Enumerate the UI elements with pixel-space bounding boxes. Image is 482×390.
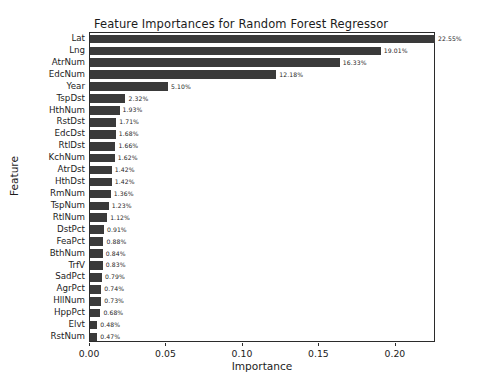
bar-row: 0.74% [90,283,124,295]
bar-value-label: 16.33% [343,60,367,66]
y-tick-label: Elvt [1,320,85,329]
bar-row: 2.32% [90,92,148,104]
bar-value-label: 19.01% [384,48,408,54]
chart-title: Feature Importances for Random Forest Re… [0,17,482,31]
bar [90,82,168,91]
bar-row: 22.55% [90,33,462,45]
bar [90,47,381,56]
y-tick-label: HthNum [1,105,85,114]
bar-row: 1.71% [90,116,139,128]
x-tick-mark [318,343,319,346]
bar [90,58,340,67]
x-tick-mark [242,343,243,346]
bar-row: 1.42% [90,164,135,176]
bar [90,309,100,318]
bar-row: 0.91% [90,224,127,236]
bar [90,35,435,44]
bar-value-label: 1.12% [110,215,130,221]
bar-row: 1.93% [90,104,142,116]
bar-value-label: 1.62% [118,155,138,161]
y-tick-label: RtlDst [1,141,85,150]
y-tick-label: HthDst [1,177,85,186]
bar-value-label: 1.42% [115,179,135,185]
y-axis-tick-labels: LatLngAtrNumEdcNumYearTspDstHthNumRstDst… [0,32,85,342]
bar-value-label: 0.83% [106,262,126,268]
bar-row: 1.12% [90,212,130,224]
bar-row: 16.33% [90,57,367,69]
y-tick-label: Year [1,81,85,90]
bar [90,213,107,222]
bar [90,154,115,163]
bar-value-label: 0.47% [100,334,120,340]
y-tick-label: FeaPct [1,236,85,245]
y-tick-label: TrfV [1,260,85,269]
bar [90,261,103,270]
bar-value-label: 0.79% [105,274,125,280]
bar-value-label: 5.10% [171,84,191,90]
y-tick-label: HppPct [1,308,85,317]
bar-row: 0.83% [90,259,126,271]
bar [90,190,111,199]
bar-row: 0.68% [90,307,123,319]
bar-value-label: 1.36% [114,191,134,197]
bar-value-label: 0.84% [106,251,126,257]
bar [90,333,97,342]
bar-row: 5.10% [90,80,191,92]
bar [90,130,116,139]
y-tick-label: SadPct [1,272,85,281]
bar-value-label: 0.73% [104,298,124,304]
bar [90,202,109,211]
bar [90,118,116,127]
y-tick-label: KchNum [1,153,85,162]
bar [90,225,104,234]
bar [90,70,276,79]
x-tick-label: 0.15 [308,348,329,359]
bar-row: 1.23% [90,200,132,212]
y-tick-label: Lat [1,34,85,43]
x-tick-label: 0.00 [79,348,100,359]
bar [90,273,102,282]
x-tick-label: 0.10 [232,348,253,359]
y-tick-label: HllNum [1,296,85,305]
y-tick-label: Lng [1,46,85,55]
bar [90,106,120,115]
y-tick-label: RstDst [1,117,85,126]
y-tick-label: RtlNum [1,212,85,221]
bar [90,142,115,151]
bar-row: 0.84% [90,247,126,259]
bar-row: 12.18% [90,69,303,81]
bar-value-label: 0.88% [106,239,126,245]
x-axis-label: Importance [89,360,435,372]
bar-value-label: 1.42% [115,167,135,173]
bar-value-label: 1.23% [112,203,132,209]
bar [90,249,103,258]
bar-value-label: 0.48% [100,322,120,328]
bar-value-label: 0.68% [103,310,123,316]
y-tick-label: EdcDst [1,129,85,138]
y-tick-label: RmNum [1,189,85,198]
bar-row: 0.47% [90,331,120,343]
x-tick-label: 0.05 [155,348,176,359]
x-axis-tick-labels: 0.000.050.100.150.20 [89,343,435,359]
bar-value-label: 22.55% [438,36,462,42]
bar-row: 1.68% [90,128,139,140]
plot-area: 22.55%19.01%16.33%12.18%5.10%2.32%1.93%1… [89,32,435,342]
bar-row: 1.42% [90,176,135,188]
y-tick-label: AgrPct [1,284,85,293]
bar-row: 0.48% [90,319,120,331]
bar-value-label: 2.32% [128,96,148,102]
bar [90,297,101,306]
y-tick-label: TspNum [1,201,85,210]
y-tick-label: RstNum [1,332,85,341]
bar-row: 1.36% [90,188,134,200]
bar [90,94,125,103]
y-tick-label: DstPct [1,224,85,233]
bar-value-label: 1.93% [123,107,143,113]
bar [90,321,97,330]
x-tick-mark [89,343,90,346]
y-tick-label: AtrDst [1,165,85,174]
bar-row: 0.73% [90,295,124,307]
bar-value-label: 0.74% [104,286,124,292]
y-tick-label: TspDst [1,93,85,102]
y-tick-label: BthNum [1,248,85,257]
